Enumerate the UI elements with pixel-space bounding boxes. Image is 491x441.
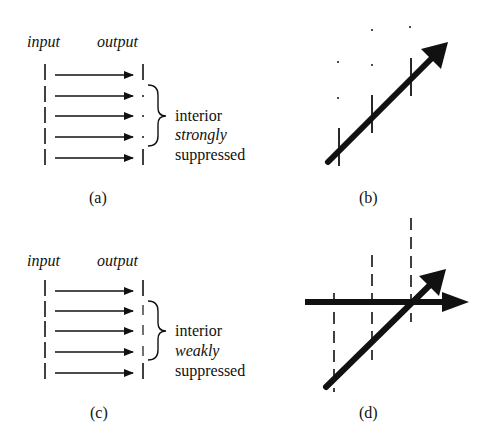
dot — [371, 64, 373, 66]
dot — [337, 97, 339, 99]
caption-c: (c) — [90, 404, 108, 422]
note-line-2: weakly — [175, 342, 220, 360]
horizontal-arrow-head — [442, 292, 469, 312]
note-line-3: suppressed — [175, 362, 245, 380]
panel-c: input output interior weakly suppressed — [27, 252, 245, 422]
input-label: input — [27, 252, 60, 270]
brace — [148, 85, 166, 146]
input-label: input — [27, 33, 60, 51]
dot — [409, 26, 411, 28]
arrows — [55, 291, 133, 373]
panel-b: (b) — [328, 26, 448, 207]
caption-b: (b) — [359, 189, 378, 207]
note-line-2: strongly — [175, 126, 228, 144]
output-label: output — [97, 252, 138, 270]
arrows — [55, 75, 133, 158]
output-dot — [142, 95, 144, 97]
output-dot — [142, 115, 144, 117]
panel-d: (d) — [305, 218, 469, 422]
panel-a: input output interior strongly suppresse… — [27, 33, 245, 207]
note-line-3: suppressed — [175, 146, 245, 164]
diagram-canvas: input output interior strongly suppresse… — [0, 0, 491, 441]
caption-d: (d) — [359, 404, 378, 422]
output-marks — [142, 64, 144, 165]
output-label: output — [97, 33, 138, 51]
note-line-1: interior — [175, 107, 223, 124]
brace — [148, 301, 166, 360]
dot — [371, 29, 373, 31]
dot — [337, 61, 339, 63]
thick-arrow-shaft — [328, 58, 432, 162]
note-line-1: interior — [175, 322, 223, 339]
caption-a: (a) — [89, 189, 107, 207]
output-dot — [142, 136, 144, 138]
